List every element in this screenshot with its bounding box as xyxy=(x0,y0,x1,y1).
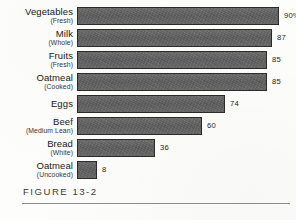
category-label-sub: (Medium Lean) xyxy=(0,127,73,135)
category-label-sub: (Whole) xyxy=(0,39,73,47)
category-label-sub: (White) xyxy=(0,149,73,157)
category-label: Milk (Whole) xyxy=(0,29,73,47)
bar-value-label: 60 xyxy=(207,121,216,130)
caption-divider xyxy=(22,203,290,204)
chart-row: Eggs 74 xyxy=(0,95,296,117)
category-label: Oatmeal (Cooked) xyxy=(0,73,73,91)
chart-row: Vegetables (Fresh) 90% xyxy=(0,7,296,29)
bar xyxy=(77,161,97,179)
category-label: Eggs xyxy=(0,99,73,109)
category-label-main: Bread xyxy=(0,139,73,149)
bar-value-label: 36 xyxy=(160,143,169,152)
chart-row: Bread (White) 36 xyxy=(0,139,296,161)
category-label-main: Vegetables xyxy=(0,7,73,17)
bar-chart: Vegetables (Fresh) 90% Milk (Whole) 87 F… xyxy=(0,7,296,182)
bar-value-label: 85 xyxy=(272,55,281,64)
category-label: Beef (Medium Lean) xyxy=(0,117,73,135)
chart-row: Milk (Whole) 87 xyxy=(0,29,296,51)
bar-value-label: 87 xyxy=(277,33,286,42)
category-label: Fruits (Fresh) xyxy=(0,51,73,69)
category-label-main: Milk xyxy=(0,29,73,39)
bar-value-label: 74 xyxy=(230,99,239,108)
bar-value-label: 8 xyxy=(102,165,106,174)
category-label: Bread (White) xyxy=(0,139,73,157)
category-label-main: Beef xyxy=(0,117,73,127)
bar xyxy=(77,117,202,135)
figure-container: Vegetables (Fresh) 90% Milk (Whole) 87 F… xyxy=(0,0,296,220)
bar xyxy=(77,51,267,69)
category-label: Oatmeal (Uncooked) xyxy=(0,161,73,179)
category-label-sub: (Cooked) xyxy=(0,83,73,91)
bar xyxy=(77,7,279,25)
category-label-main: Fruits xyxy=(0,51,73,61)
bar-value-label: 90% xyxy=(284,11,296,20)
category-label-sub: (Uncooked) xyxy=(0,171,73,179)
category-label-main: Oatmeal xyxy=(0,73,73,83)
category-label-main: Oatmeal xyxy=(0,161,73,171)
chart-row: Oatmeal (Uncooked) 8 xyxy=(0,161,296,183)
chart-row: Oatmeal (Cooked) 85 xyxy=(0,73,296,95)
bar-value-label: 85 xyxy=(272,77,281,86)
category-label-sub: (Fresh) xyxy=(0,61,73,69)
chart-row: Beef (Medium Lean) 60 xyxy=(0,117,296,139)
category-label-main: Eggs xyxy=(0,99,73,109)
category-label: Vegetables (Fresh) xyxy=(0,7,73,25)
bar xyxy=(77,73,267,91)
bar xyxy=(77,29,272,47)
category-label-sub: (Fresh) xyxy=(0,17,73,25)
figure-caption: Figure 13-2 xyxy=(23,186,98,198)
chart-row: Fruits (Fresh) 85 xyxy=(0,51,296,73)
bar xyxy=(77,139,155,157)
bar xyxy=(77,95,225,113)
